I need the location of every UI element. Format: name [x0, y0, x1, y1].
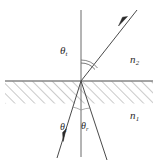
medium-upper-subscript: 2: [136, 59, 139, 66]
hatched-substrate-region: [5, 82, 153, 104]
reflected-angle-arc: [81, 108, 91, 110]
label-theta-incident: θi: [60, 122, 67, 133]
label-theta-reflected: θr: [81, 121, 88, 132]
medium-upper-symbol: n: [130, 53, 136, 65]
refracted-ray: [81, 10, 137, 81]
theta-reflected-subscript: r: [86, 125, 88, 132]
theta-transmitted-symbol: θ: [60, 44, 65, 56]
label-medium-upper: n2: [130, 54, 139, 67]
medium-lower-symbol: n: [130, 109, 136, 121]
theta-incident-subscript: i: [65, 126, 67, 133]
label-medium-lower: n1: [130, 110, 139, 123]
refraction-diagram: θt n2 n1 θi θr: [0, 0, 158, 163]
theta-transmitted-subscript: t: [66, 50, 68, 57]
incident-angle-arc: [73, 107, 82, 110]
medium-lower-subscript: 1: [136, 115, 139, 122]
label-theta-transmitted: θt: [60, 45, 67, 58]
refracted-ray-arrowhead: [119, 17, 128, 27]
diagram-canvas: [0, 0, 158, 163]
